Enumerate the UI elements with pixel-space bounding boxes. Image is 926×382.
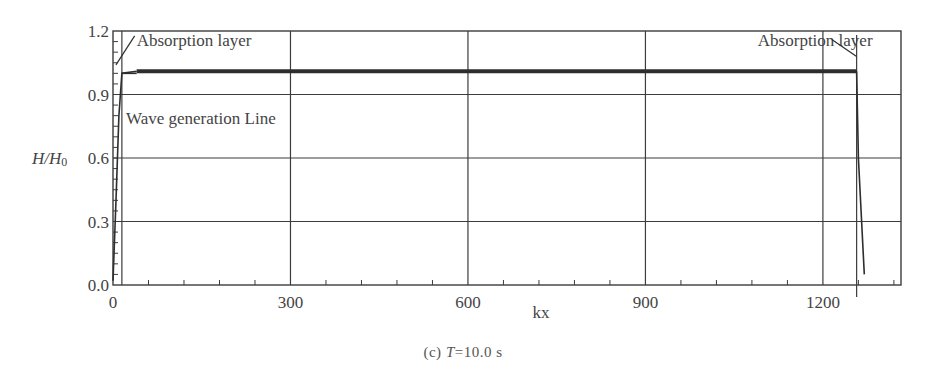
- x-tick-label: 1200: [806, 293, 840, 312]
- x-tick-label: 300: [278, 293, 304, 312]
- x-axis-label: kx: [533, 303, 551, 322]
- series-decay: [857, 71, 865, 274]
- data-series: [113, 71, 864, 281]
- caption-prefix: (c): [423, 344, 445, 360]
- annotation-label: Wave generation Line: [126, 109, 276, 128]
- y-tick-label: 0.0: [88, 276, 109, 295]
- annotations: Absorption layerAbsorption layerWave gen…: [116, 31, 873, 128]
- x-tick-label: 0: [109, 293, 118, 312]
- annotation-pointer: [116, 36, 135, 65]
- y-tick-label: 0.9: [88, 86, 109, 105]
- y-tick-label: 0.3: [88, 213, 109, 232]
- y-tick-label: 1.2: [88, 22, 109, 41]
- series-rise: [113, 71, 137, 281]
- wave-height-chart: Absorption layerAbsorption layerWave gen…: [0, 0, 926, 382]
- y-axis-label-main: H/H: [31, 149, 63, 168]
- y-tick-label: 0.6: [88, 149, 109, 168]
- minor-ticks: [113, 42, 894, 285]
- x-tick-label: 600: [455, 293, 481, 312]
- caption-variable: T: [446, 344, 455, 360]
- annotation-label: Absorption layer: [758, 31, 873, 50]
- caption-value: =10.0 s: [455, 344, 503, 360]
- annotation-label: Absorption layer: [137, 31, 252, 50]
- figure-caption: (c) T=10.0 s: [0, 344, 926, 361]
- x-tick-labels: 03006009001200: [109, 293, 840, 312]
- x-tick-label: 900: [633, 293, 659, 312]
- y-tick-labels: 0.00.30.60.91.2: [88, 22, 109, 295]
- y-axis-label-subscript: 0: [61, 155, 67, 169]
- y-axis-label: H/H0: [31, 149, 67, 169]
